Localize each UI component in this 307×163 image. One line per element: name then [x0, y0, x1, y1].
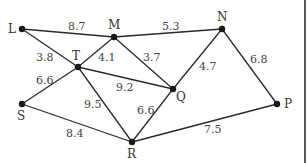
edge-labels-group: 8.75.33.84.13.74.76.89.26.69.56.68.47.5 [36, 20, 268, 140]
edge-weight-label: 5.3 [162, 20, 180, 33]
edge-weight-label: 3.8 [36, 51, 54, 64]
node-label-n: N [217, 10, 228, 24]
edge-n-q [173, 29, 222, 89]
node-n [219, 26, 225, 32]
node-label-t: T [72, 49, 80, 63]
edge-weight-label: 4.1 [98, 51, 116, 64]
edge-weight-label: 6.6 [36, 74, 54, 87]
node-label-l: L [8, 22, 16, 36]
node-label-m: M [108, 18, 120, 32]
node-l [19, 26, 25, 32]
edges-group [22, 29, 277, 142]
edge-weight-label: 8.4 [66, 127, 84, 140]
node-s [19, 101, 25, 107]
node-m [111, 34, 117, 40]
edge-weight-label: 9.2 [116, 81, 134, 94]
edge-weight-label: 7.5 [204, 123, 222, 136]
edge-weight-label: 4.7 [199, 60, 217, 73]
nodes-group [19, 26, 280, 145]
node-t [75, 64, 81, 70]
node-p [274, 101, 280, 107]
edge-weight-label: 9.5 [84, 98, 102, 111]
edge-weight-label: 3.7 [143, 51, 161, 64]
node-label-r: R [127, 147, 137, 161]
node-label-s: S [17, 109, 25, 123]
node-label-p: P [284, 97, 292, 111]
edge-n-p [222, 29, 277, 104]
edge-weight-label: 6.6 [137, 104, 155, 117]
edge-weight-label: 6.8 [250, 53, 268, 66]
edge-weight-label: 8.7 [68, 20, 86, 33]
node-label-q: Q [176, 90, 186, 104]
node-r [129, 139, 135, 145]
weighted-graph-diagram: 8.75.33.84.13.74.76.89.26.69.56.68.47.5 … [0, 0, 307, 163]
